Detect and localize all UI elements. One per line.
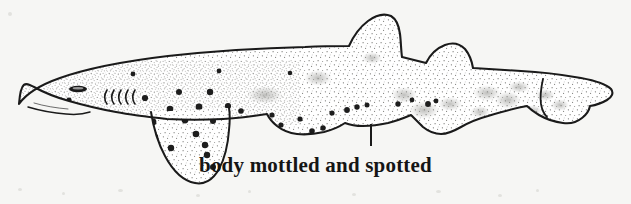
eye-icon: [69, 86, 87, 92]
shark-figure: body mottled and spotted: [0, 0, 631, 204]
caption-body-mottled-and-spotted: body mottled and spotted: [0, 152, 631, 178]
